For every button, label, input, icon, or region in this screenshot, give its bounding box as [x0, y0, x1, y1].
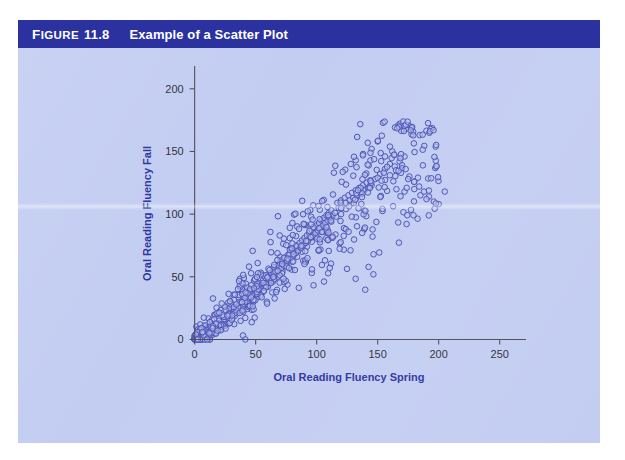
data-point [376, 185, 382, 191]
figure-label: FIGURE [32, 27, 79, 42]
data-point [286, 265, 292, 271]
data-point [232, 292, 238, 298]
data-point [359, 230, 365, 236]
data-point [338, 239, 344, 245]
data-point [324, 224, 330, 230]
data-point [375, 138, 381, 144]
data-point [299, 198, 305, 204]
data-point [391, 152, 397, 158]
data-point [354, 224, 360, 230]
data-point [326, 248, 332, 254]
data-point [359, 194, 365, 200]
data-point [365, 190, 371, 196]
data-point [393, 173, 399, 179]
data-point [330, 192, 336, 198]
data-point [330, 234, 336, 240]
data-point [368, 178, 374, 184]
data-point [390, 203, 396, 209]
data-point [376, 250, 382, 256]
data-point [225, 313, 231, 319]
data-point [332, 163, 338, 169]
x-tick-label: 150 [368, 348, 386, 360]
data-point [302, 261, 308, 267]
data-point [355, 187, 361, 193]
data-point [363, 208, 369, 214]
data-point [261, 288, 267, 294]
data-point [290, 232, 296, 238]
data-point [275, 213, 281, 219]
data-point [411, 212, 417, 218]
data-point [207, 331, 213, 337]
data-point [268, 239, 274, 245]
data-point [308, 234, 314, 240]
data-point [396, 240, 402, 246]
data-point [309, 267, 315, 273]
data-point [410, 133, 416, 139]
data-point [243, 290, 249, 296]
data-point [374, 219, 380, 225]
data-point [352, 197, 358, 203]
data-point [268, 280, 274, 286]
data-point [371, 156, 377, 162]
data-point [426, 188, 432, 194]
data-point [360, 153, 366, 159]
data-point [338, 206, 344, 212]
y-tick-label: 0 [178, 333, 184, 345]
figure-label-rest: IGURE [41, 29, 79, 41]
data-point [394, 186, 400, 192]
data-point [432, 154, 438, 160]
data-point [240, 308, 246, 314]
data-point [279, 261, 285, 267]
data-point [381, 170, 387, 176]
data-point [250, 304, 256, 310]
data-point [331, 170, 337, 176]
data-point [428, 175, 434, 181]
data-point [310, 217, 316, 223]
data-point [396, 168, 402, 174]
data-point [310, 203, 316, 209]
data-point [411, 199, 417, 205]
y-tick-label: 200 [165, 83, 183, 95]
y-axis-title: Oral Reading Fluency Fall [141, 146, 153, 281]
data-point [292, 267, 298, 273]
data-point [275, 268, 281, 274]
data-point [251, 286, 257, 292]
data-point [368, 150, 374, 156]
data-point [316, 247, 322, 253]
data-point [432, 206, 438, 212]
data-point [362, 225, 368, 231]
data-point [344, 266, 350, 272]
data-point [325, 212, 331, 218]
data-point [346, 229, 352, 235]
data-point [366, 264, 372, 270]
figure-title: Example of a Scatter Plot [129, 27, 288, 42]
y-tick-label: 100 [165, 208, 183, 220]
data-point [290, 259, 296, 265]
data-point [371, 251, 377, 257]
data-point [403, 166, 409, 172]
data-point [341, 233, 347, 239]
y-tick-label: 150 [165, 145, 183, 157]
data-point [219, 301, 225, 307]
data-point [433, 201, 439, 207]
data-point [255, 260, 261, 266]
data-point [210, 325, 216, 331]
x-tick-label: 0 [192, 348, 198, 360]
data-point [275, 250, 281, 256]
data-point [322, 258, 328, 264]
data-point [420, 147, 426, 153]
data-point [316, 203, 322, 209]
data-point [305, 255, 311, 261]
data-point [240, 272, 246, 278]
data-point [254, 274, 260, 280]
x-tick-label: 200 [430, 348, 448, 360]
data-point [420, 132, 426, 138]
data-point [265, 275, 271, 281]
data-point [371, 272, 377, 278]
data-point [268, 229, 274, 235]
data-point [424, 196, 430, 202]
data-point [338, 211, 344, 217]
data-point [405, 176, 411, 182]
data-point [235, 286, 241, 292]
data-point [271, 262, 277, 268]
